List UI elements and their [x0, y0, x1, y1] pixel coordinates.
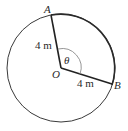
circle-sector-diagram: A B O θ 4 m 4 m: [0, 0, 128, 131]
point-label-b: B: [114, 79, 121, 91]
point-label-a: A: [43, 3, 51, 15]
center-label-o: O: [52, 68, 60, 80]
angle-label-theta: θ: [64, 54, 70, 66]
radius-label-oa: 4 m: [35, 39, 52, 51]
radius-label-ob: 4 m: [77, 77, 94, 89]
radius-oa: [51, 15, 61, 68]
